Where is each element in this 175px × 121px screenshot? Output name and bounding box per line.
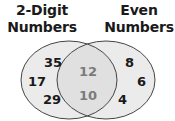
- intersection-value: 12: [79, 64, 97, 79]
- set-a-value: 17: [28, 74, 46, 89]
- set-b-value: 6: [137, 74, 146, 89]
- set-b-value: 4: [118, 92, 127, 107]
- intersection-value: 10: [79, 88, 97, 103]
- set-a-value: 35: [44, 55, 62, 70]
- set-a-value: 29: [43, 92, 61, 107]
- venn-diagram: 35 17 29 12 10 8 6 4: [0, 0, 175, 121]
- set-b-value: 8: [125, 55, 134, 70]
